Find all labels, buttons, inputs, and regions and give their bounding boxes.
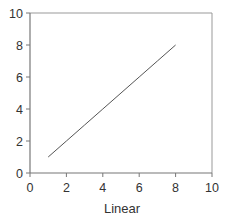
y-tick-label: 4 — [16, 103, 23, 117]
y-tick-label: 10 — [9, 7, 23, 21]
y-tick-label: 2 — [16, 135, 23, 149]
x-tick-label: 6 — [136, 181, 143, 195]
x-tick-label: 4 — [99, 181, 106, 195]
x-tick-label: 8 — [172, 181, 179, 195]
x-tick-label: 10 — [205, 181, 219, 195]
y-tick-label: 8 — [16, 39, 23, 53]
chart-canvas: 02468100246810 Linear — [0, 0, 227, 221]
y-tick-label: 6 — [16, 71, 23, 85]
x-tick-label: 2 — [63, 181, 70, 195]
x-tick-label: 0 — [27, 181, 34, 195]
x-axis-title: Linear — [104, 201, 141, 216]
y-tick-label: 0 — [16, 167, 23, 181]
series-line — [48, 45, 175, 157]
plot-area: 02468100246810 — [9, 7, 219, 196]
